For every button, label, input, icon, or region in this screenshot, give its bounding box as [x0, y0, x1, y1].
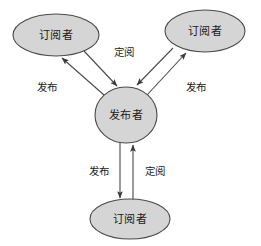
node-publisher-center-label: 发布者	[109, 108, 144, 122]
edge-publish-top-left-label: 发布	[37, 81, 58, 93]
node-subscriber-top-left[interactable]: 订阅者	[13, 14, 99, 56]
diagram-canvas: 发布 定阅 发布 发布 定阅 订阅者	[0, 0, 261, 246]
edge-publish-top-left-line	[62, 58, 104, 95]
node-publisher-center[interactable]: 发布者	[95, 87, 157, 143]
edge-publish-bottom-label: 发布	[89, 165, 110, 177]
node-subscriber-top-right[interactable]: 订阅者	[165, 10, 245, 52]
edge-subscribe-top-left: 定阅	[84, 46, 135, 86]
edge-subscribe-label: 定阅	[114, 46, 135, 58]
node-subscriber-top-right-label: 订阅者	[188, 25, 223, 38]
edge-subscribe-bottom: 定阅	[133, 145, 166, 200]
edge-publish-top-right-label: 发布	[186, 81, 207, 93]
edge-publish-top-right: 发布	[147, 53, 207, 95]
node-subscriber-bottom[interactable]: 订阅者	[90, 199, 170, 239]
edge-publish-bottom: 发布	[89, 143, 121, 198]
publish-subscribe-diagram: 发布 定阅 发布 发布 定阅 订阅者	[0, 0, 261, 246]
edge-subscribe-top-right-line	[137, 48, 173, 85]
edge-publish-top-right-line	[147, 53, 186, 95]
node-subscriber-top-left-label: 订阅者	[39, 29, 74, 42]
edge-subscribe-top-left-line	[84, 51, 117, 86]
edge-subscribe-bottom-label: 定阅	[145, 165, 166, 177]
edge-publish-top-left: 发布	[37, 58, 105, 95]
edge-subscribe-top-right	[137, 48, 173, 85]
node-subscriber-bottom-label: 订阅者	[113, 213, 148, 226]
